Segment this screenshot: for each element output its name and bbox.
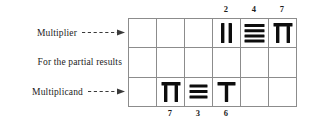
grid-cell-r2c5[interactable] <box>241 48 269 77</box>
grid-cell-r3c4[interactable] <box>213 78 241 107</box>
row-label-partial-results: For the partial results <box>0 48 128 78</box>
grid-cell-r3c1[interactable] <box>129 78 157 107</box>
grid-cell-r3c2[interactable] <box>157 78 185 107</box>
row-label-multiplicand-text: Multiplicand <box>32 87 83 97</box>
grid-cell-r1c1[interactable] <box>129 19 157 48</box>
rod-six-tee-icon <box>217 81 236 103</box>
row-label-partial-results-text: For the partial results <box>38 57 122 67</box>
rod-seven-pi-icon <box>273 22 293 44</box>
dashed-arrow-right-icon <box>82 28 126 37</box>
column-annotation-top-7: 7 <box>268 4 296 14</box>
grid-cell-r1c3[interactable] <box>185 19 213 48</box>
rod-seven-pi-icon <box>161 81 181 103</box>
dashed-arrow-right-icon <box>88 87 126 96</box>
grid-cell-r3c6[interactable] <box>269 78 297 107</box>
rod-three-horizontal-bars-icon <box>189 83 208 100</box>
grid-cell-r1c4[interactable] <box>213 19 241 48</box>
row-label-multiplicand: Multiplicand <box>0 77 128 107</box>
row-label-column: Multiplier For the partial results Multi… <box>0 18 128 107</box>
grid-cell-r3c5[interactable] <box>241 78 269 107</box>
column-annotation-bottom-7: 7 <box>156 108 184 118</box>
grid-cell-r2c2[interactable] <box>157 48 185 77</box>
row-label-multiplier-text: Multiplier <box>37 28 77 38</box>
grid-cell-r2c1[interactable] <box>129 48 157 77</box>
grid-cell-r1c2[interactable] <box>157 19 185 48</box>
grid-cell-r1c5[interactable] <box>241 19 269 48</box>
rod-four-horizontal-bars-icon <box>244 22 265 44</box>
column-annotation-top-4: 4 <box>240 4 268 14</box>
column-annotation-bottom-6: 6 <box>212 108 240 118</box>
row-label-multiplier: Multiplier <box>0 18 128 48</box>
rod-two-vertical-bars-icon <box>218 22 235 44</box>
column-annotation-top-2: 2 <box>212 4 240 14</box>
grid-cell-r1c6[interactable] <box>269 19 297 48</box>
column-annotation-bottom-3: 3 <box>184 108 212 118</box>
grid-cell-r3c3[interactable] <box>185 78 213 107</box>
grid-cell-r2c6[interactable] <box>269 48 297 77</box>
grid-cell-r2c4[interactable] <box>213 48 241 77</box>
rod-numeral-grid <box>128 18 297 107</box>
grid-cell-r2c3[interactable] <box>185 48 213 77</box>
